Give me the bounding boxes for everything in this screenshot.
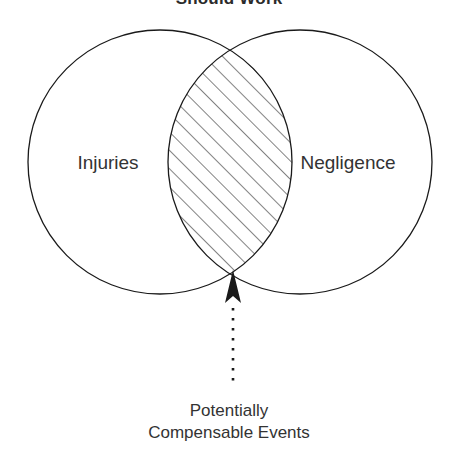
venn-diagram-figure: Should Work — [0, 0, 458, 463]
intersection-hatch-region — [150, 20, 320, 310]
label-negligence: Negligence — [300, 152, 395, 173]
caption-line-1: Potentially — [190, 401, 269, 420]
venn-canvas: Injuries Negligence Potentially Compensa… — [0, 0, 458, 463]
caption-line-2: Compensable Events — [148, 423, 310, 442]
label-injuries: Injuries — [77, 152, 138, 173]
